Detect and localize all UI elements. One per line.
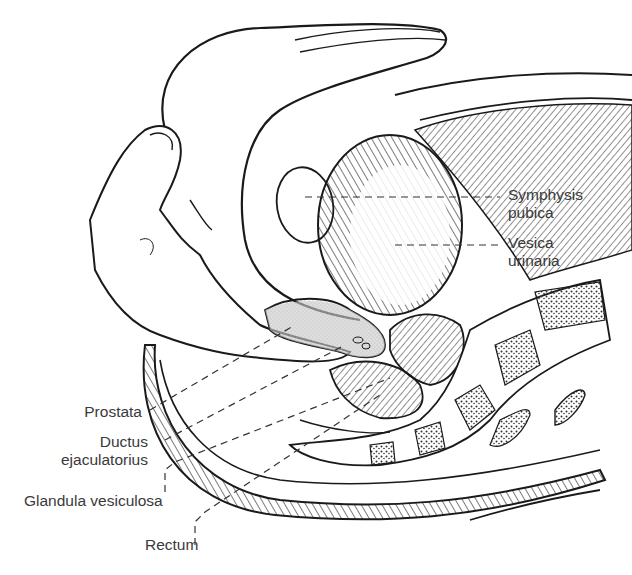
anatomy-figure: Symphysis pubica Vesica urinaria Prostat… xyxy=(0,0,632,575)
label-ductus-ejaculatorius: Ductus ejaculatorius xyxy=(20,433,148,469)
label-glandula-vesiculosa: Glandula vesiculosa xyxy=(24,492,163,510)
label-vesica-line1: Vesica xyxy=(508,234,560,252)
label-ductus-line1: Ductus xyxy=(20,433,148,451)
label-vesica-urinaria: Vesica urinaria xyxy=(508,234,560,270)
label-symphysis-line2: pubica xyxy=(508,204,583,222)
bladder-shape xyxy=(318,135,462,315)
label-symphysis-line1: Symphysis xyxy=(508,186,583,204)
label-ductus-line2: ejaculatorius xyxy=(20,451,148,469)
label-symphysis-pubica: Symphysis pubica xyxy=(508,186,583,222)
anatomy-drawing xyxy=(0,0,632,575)
label-prostata: Prostata xyxy=(30,403,142,421)
label-vesica-line2: urinaria xyxy=(508,252,560,270)
label-rectum: Rectum xyxy=(145,536,198,554)
